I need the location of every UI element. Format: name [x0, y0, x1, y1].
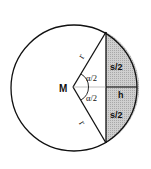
label-center: M [59, 83, 67, 94]
label-radius-top: r [75, 51, 86, 60]
label-angle-bottom: α/2 [86, 93, 97, 103]
label-height: h [118, 90, 124, 100]
label-half-chord-top: s/2 [110, 62, 123, 72]
label-half-chord-bottom: s/2 [110, 110, 123, 120]
label-radius-bottom: r [77, 118, 88, 127]
label-angle-top: α/2 [86, 73, 97, 83]
circle-segment-diagram: M r r α/2 α/2 s/2 h s/2 [0, 0, 151, 169]
